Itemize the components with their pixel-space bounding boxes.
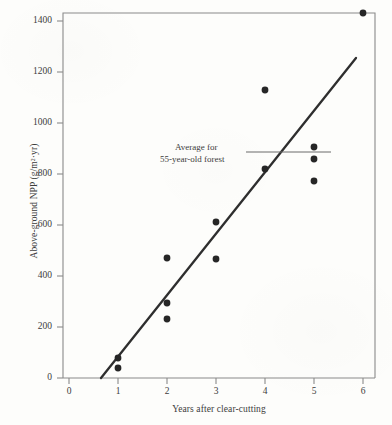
x-tick-label: 6	[351, 386, 375, 396]
y-axis-title: Above-ground NPP (g/m²·yr)	[29, 121, 39, 281]
scatter-plot-canvas	[0, 0, 392, 425]
data-point	[164, 255, 171, 262]
data-point	[262, 166, 269, 173]
plot-frame	[63, 13, 375, 378]
data-point	[311, 156, 318, 163]
data-point	[164, 300, 171, 307]
data-point	[213, 256, 220, 263]
x-tick-label: 0	[57, 386, 81, 396]
x-tick-label: 5	[302, 386, 326, 396]
y-tick-label: 200	[12, 321, 52, 331]
data-point	[311, 144, 318, 151]
x-tick-label: 2	[155, 386, 179, 396]
x-tick-label: 1	[106, 386, 130, 396]
x-axis-ticks	[69, 378, 363, 384]
y-tick-label: 1200	[12, 66, 52, 76]
x-axis-title: Years after clear-cutting	[63, 404, 375, 414]
annotation-line-1: Average for	[175, 141, 218, 153]
data-point	[115, 365, 122, 372]
data-point	[164, 316, 171, 323]
data-point	[262, 87, 269, 94]
y-axis-ticks	[57, 21, 63, 378]
x-tick-label: 3	[204, 386, 228, 396]
figure-container: 0 200 400 600 800 1000 1200 1400 0 1 2 3…	[0, 0, 392, 425]
data-point	[360, 10, 367, 17]
y-tick-label: 0	[12, 372, 52, 382]
annotation-line-2: 55-year-old forest	[160, 153, 225, 165]
y-tick-label: 1400	[12, 15, 52, 25]
data-points	[115, 10, 367, 372]
x-tick-label: 4	[253, 386, 277, 396]
data-point	[311, 178, 318, 185]
data-point	[115, 355, 122, 362]
trend-line	[101, 58, 356, 378]
data-point	[213, 219, 220, 226]
